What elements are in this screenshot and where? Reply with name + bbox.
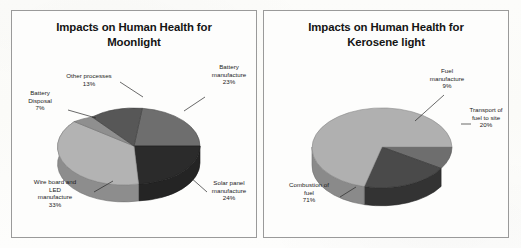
chart-panels: Impacts on Human Health for Moonlight — [11, 10, 509, 238]
chart-panel-kerosene: Impacts on Human Health for Kerosene lig… — [263, 10, 509, 238]
pie-plot-moonlight: Other processes 13% Battery Disposal 7% … — [12, 11, 256, 237]
pie-slice-battery-manufacture — [134, 108, 200, 146]
label-transport-of-fuel-to-site: Transport of fuel to site 20% — [463, 106, 509, 129]
label-other-processes: Other processes 13% — [58, 72, 120, 87]
label-fuel-manufacture: Fuel manufacture 9% — [422, 67, 472, 90]
label-solar-panel-manufacture: Solar panel manufacture 24% — [202, 179, 256, 202]
pie-plot-kerosene: Fuel manufacture 9% Transport of fuel to… — [264, 11, 508, 237]
label-wire-board-led-manufacture: Wire board and LED manufacture 33% — [21, 178, 89, 208]
label-battery-disposal: Battery Disposal 7% — [16, 89, 64, 112]
label-combustion-of-fuel: Combustion of fuel 71% — [276, 181, 342, 204]
label-battery-manufacture: Battery manufacture 23% — [202, 63, 256, 86]
chart-panel-moonlight: Impacts on Human Health for Moonlight — [11, 10, 257, 238]
